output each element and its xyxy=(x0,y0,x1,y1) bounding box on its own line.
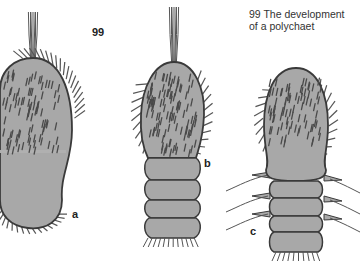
cilium xyxy=(71,76,76,88)
polychaete-illustration xyxy=(0,0,362,269)
cilium xyxy=(0,214,3,222)
cilium xyxy=(168,238,169,247)
cilium xyxy=(329,110,337,118)
body-band xyxy=(0,150,66,153)
cilium xyxy=(69,71,73,84)
cilium xyxy=(283,252,285,261)
cilium xyxy=(254,110,264,116)
cilium xyxy=(177,238,178,247)
cilium xyxy=(153,238,156,247)
caption-line-1: 99 The development xyxy=(249,8,345,20)
body-segment xyxy=(145,200,201,218)
chaeta xyxy=(330,200,360,214)
body-segment xyxy=(270,198,323,216)
chaeta xyxy=(226,196,268,212)
caption-line-2: of a polychaet xyxy=(249,20,345,32)
cilium xyxy=(308,252,310,261)
cilium xyxy=(148,238,152,247)
stage-label-b: b xyxy=(204,157,211,169)
cilium xyxy=(288,252,290,261)
cilium xyxy=(190,238,193,247)
cilium xyxy=(312,252,314,261)
cilium xyxy=(2,217,6,226)
cilium xyxy=(158,238,160,247)
larva-stage-b xyxy=(131,7,213,247)
cilium xyxy=(254,118,263,125)
body-segment xyxy=(145,158,201,180)
cilium xyxy=(272,252,276,261)
chaeta xyxy=(226,175,268,191)
chaeta xyxy=(226,214,268,230)
stage-label-a: a xyxy=(72,208,78,220)
cilium xyxy=(303,252,304,261)
cilium xyxy=(328,101,335,110)
body-segment xyxy=(270,181,323,198)
cilium xyxy=(326,93,331,103)
cilium xyxy=(329,120,338,126)
cilium xyxy=(186,238,188,247)
stage-label-c: c xyxy=(250,225,256,237)
larva-stage-c xyxy=(226,68,360,261)
figure-caption: 99 The development of a polychaet xyxy=(249,8,345,32)
cilium xyxy=(136,84,148,85)
chaeta xyxy=(330,218,360,232)
surface-bristle xyxy=(269,79,271,86)
cilium xyxy=(277,252,280,261)
cilium xyxy=(56,55,57,68)
cilium xyxy=(143,238,148,247)
cilium xyxy=(256,126,264,135)
chaeta xyxy=(330,179,360,193)
cilium xyxy=(194,238,198,247)
body-segment xyxy=(270,216,323,232)
larva-stage-a xyxy=(0,12,85,234)
cilium xyxy=(163,238,165,247)
cilium xyxy=(182,238,184,247)
cilium xyxy=(66,66,69,79)
body-segment xyxy=(270,232,323,252)
body-segment xyxy=(145,180,201,200)
cilium xyxy=(255,103,265,107)
body-segment xyxy=(145,218,201,238)
cilium xyxy=(317,252,320,261)
cilium xyxy=(63,62,64,75)
figure-number: 99 xyxy=(92,26,104,38)
cilium xyxy=(293,252,294,261)
